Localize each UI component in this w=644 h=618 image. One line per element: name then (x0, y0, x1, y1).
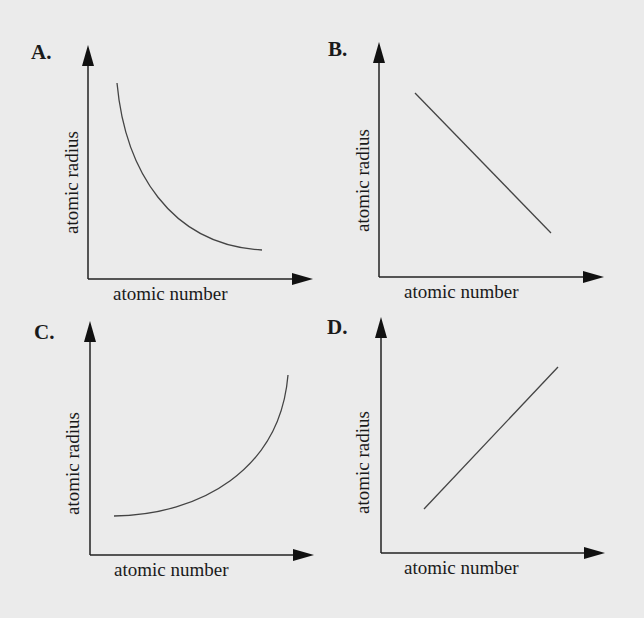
panel-d-line (424, 367, 558, 509)
panel-a-axes (82, 45, 313, 285)
panel-d-letter: D. (327, 315, 347, 340)
panel-d-ylabel: atomic radius (352, 411, 374, 514)
panel-b-ylabel: atomic radius (352, 129, 374, 232)
panel-a-letter: A. (31, 40, 51, 65)
panel-a-xlabel: atomic number (113, 283, 228, 305)
panel-c-xlabel: atomic number (114, 559, 229, 581)
panel-d-axes (375, 317, 605, 559)
panel-b-axes (373, 42, 604, 283)
panel-a-ylabel: atomic radius (61, 131, 83, 234)
panel-c-letter: C. (34, 320, 54, 345)
panel-a-curve (117, 83, 262, 250)
panel-c-axes (84, 321, 314, 561)
panel-b-line (415, 93, 551, 233)
panel-b-letter: B. (328, 37, 347, 62)
panel-c-ylabel: atomic radius (62, 412, 84, 515)
graphs-canvas (0, 0, 644, 618)
panel-b-xlabel: atomic number (404, 281, 519, 303)
panel-c-curve (114, 375, 288, 516)
panel-d-xlabel: atomic number (404, 557, 519, 579)
